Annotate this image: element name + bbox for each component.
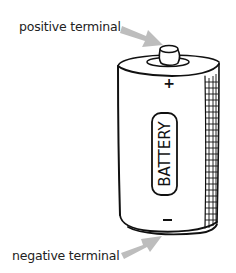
positive-arrow-icon bbox=[120, 26, 163, 47]
battery-illustration: + BATTERY bbox=[0, 0, 236, 273]
battery-text: BATTERY bbox=[156, 120, 174, 186]
plus-sign: + bbox=[163, 75, 175, 91]
positive-terminal-cap bbox=[159, 46, 179, 66]
negative-arrow-icon bbox=[121, 236, 162, 259]
battery-label-box: BATTERY bbox=[152, 113, 177, 195]
